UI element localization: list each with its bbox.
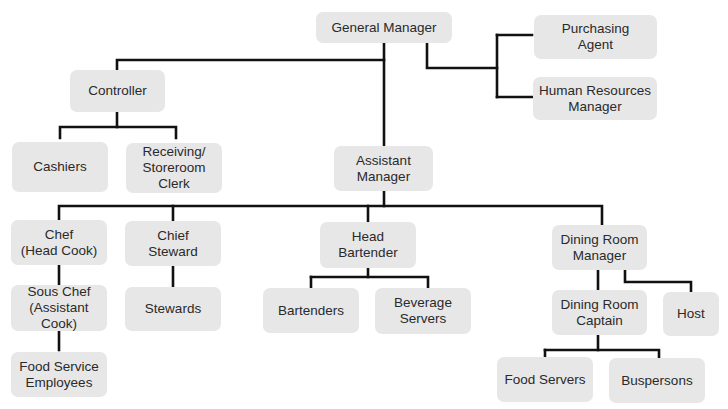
node-purchasing-agent: Purchasing Agent [534, 15, 657, 59]
node-buspersons: Buspersons [609, 358, 705, 403]
node-human-resources-manager: Human Resources Manager [533, 77, 657, 120]
node-chef: Chef (Head Cook) [11, 220, 107, 265]
node-dining-room-manager: Dining Room Manager [552, 225, 647, 270]
node-host: Host [663, 292, 719, 336]
node-sous-chef: Sous Chef (Assistant Cook) [11, 285, 107, 331]
node-dining-room-captain: Dining Room Captain [552, 290, 647, 335]
node-controller: Controller [70, 70, 165, 112]
node-food-service-employees: Food Service Employees [11, 352, 107, 397]
node-bartenders: Bartenders [263, 288, 359, 333]
node-chief-steward: Chief Steward [125, 221, 221, 266]
node-cashiers: Cashiers [12, 142, 108, 192]
node-assistant-manager: Assistant Manager [334, 146, 433, 191]
node-food-servers: Food Servers [497, 357, 593, 402]
connector-lines [0, 0, 728, 409]
node-stewards: Stewards [125, 287, 221, 331]
node-general-manager: General Manager [316, 12, 452, 43]
node-beverage-servers: Beverage Servers [375, 288, 471, 334]
node-head-bartender: Head Bartender [320, 222, 416, 268]
node-receiving-storeroom-clerk: Receiving/ Storeroom Clerk [126, 143, 222, 193]
